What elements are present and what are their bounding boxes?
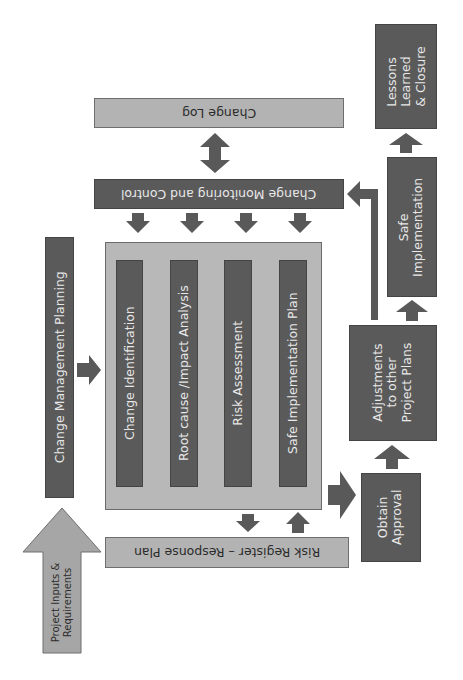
risk-register-label: Risk Register – Response Plan	[134, 545, 320, 559]
project-inputs-label: Project Inputs & Requirements	[51, 562, 74, 641]
double-arrow-log-monitoring	[200, 133, 230, 173]
risk-register-box: Risk Register – Response Plan	[105, 537, 349, 568]
arrow-risk-to-process	[286, 512, 310, 533]
change-monitoring-box: Change Monitoring and Control	[94, 179, 344, 209]
change-planning-box: Change Management Planning	[45, 237, 74, 498]
obtain-approval-label: Obtain Approval	[377, 490, 406, 545]
change-planning-label: Change Management Planning	[52, 272, 66, 464]
step-label: Risk Assessment	[231, 321, 245, 426]
project-inputs-label-wrap: Project Inputs & Requirements	[43, 552, 81, 652]
step-label: Change Identification	[122, 307, 136, 441]
adjustments-box: Adjustments to other Project Plans	[349, 325, 437, 441]
step-root-cause-analysis: Root cause /Impact Analysis	[170, 260, 198, 487]
step-label: Root cause /Impact Analysis	[177, 286, 191, 462]
arrow-approval-to-adjustments	[374, 445, 410, 469]
arrow-process-to-risk	[236, 514, 260, 532]
safe-implementation-label: Safe Implementation	[398, 177, 427, 276]
change-monitoring-label: Change Monitoring and Control	[121, 187, 316, 201]
arrow-planning-to-process	[77, 355, 101, 385]
lessons-learned-box: Lessons Learned & Closure	[375, 24, 437, 129]
arrow-adjustments-to-safe	[396, 300, 428, 321]
step-risk-assessment: Risk Assessment	[224, 260, 252, 487]
change-log-box: Change Log	[94, 98, 344, 128]
arrow-safe-to-lessons	[389, 133, 423, 153]
adjustments-label: Adjustments to other Project Plans	[371, 343, 414, 423]
step-change-identification: Change Identification	[116, 260, 143, 487]
lessons-learned-label: Lessons Learned & Closure	[384, 46, 427, 107]
safe-implementation-box: Safe Implementation	[387, 157, 437, 297]
change-log-label: Change Log	[182, 106, 256, 120]
arrow-process-to-approval	[328, 471, 356, 519]
obtain-approval-box: Obtain Approval	[361, 473, 421, 562]
arrows-monitoring-to-process	[126, 213, 312, 233]
arrow-adjustments-to-monitoring	[347, 181, 378, 320]
step-label: Safe Implementation Plan	[286, 293, 300, 454]
step-safe-implementation-plan: Safe Implementation Plan	[279, 260, 307, 487]
